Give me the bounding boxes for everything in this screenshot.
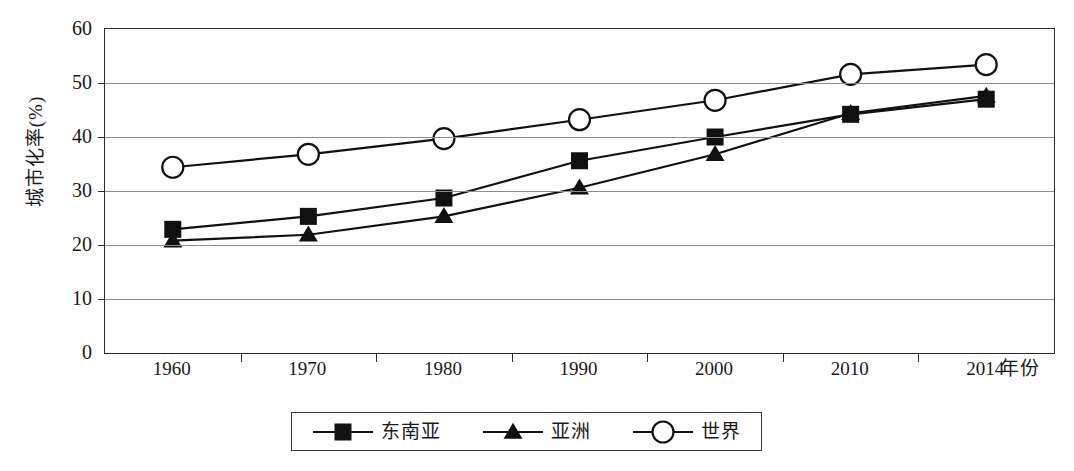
legend-item[interactable]: 东南亚 [312,420,441,444]
chart-figure: 6050403020100 城市化率(%) 196019701980199020… [0,0,1074,471]
data-point-marker [976,54,997,75]
data-point-marker [298,144,319,165]
y-axis-tick-label: 20 [36,234,92,254]
data-point-marker [569,109,590,130]
data-point-marker [435,190,452,207]
x-axis-tick-label: 2010 [810,358,890,380]
x-axis-title: 年份 [1000,358,1040,380]
y-axis-tick [98,83,105,84]
data-point-marker [433,128,454,149]
x-axis-tick-label: 1970 [267,358,347,380]
legend-item[interactable]: 亚洲 [482,420,591,444]
chart-legend: 东南亚亚洲世界 [291,412,762,451]
y-axis-tick-label: 60 [36,18,92,38]
x-axis-tick-label: 2000 [674,358,754,380]
data-point-marker [162,157,183,178]
y-axis-tick [98,137,105,138]
data-point-marker [300,208,317,225]
gridline [105,83,1054,84]
gridline [105,137,1054,138]
legend-marker-open-circle-icon [632,420,694,444]
y-axis-title: 城市化率(%) [26,87,45,217]
plot-area [104,28,1055,354]
legend-item-label: 东南亚 [381,422,441,441]
gridline [105,245,1054,246]
legend-marker-filled-triangle-icon [482,420,544,444]
y-axis-tick [98,191,105,192]
x-axis-labels: 1960197019801990200020102014 [104,358,1053,384]
legend-item[interactable]: 世界 [632,420,741,444]
gridline [105,299,1054,300]
data-point-marker [571,152,588,169]
x-axis-tick-label: 1990 [539,358,619,380]
y-axis-tick [98,245,105,246]
legend-marker-filled-square-icon [312,420,374,444]
y-axis-tick-label: 0 [36,342,92,362]
x-axis-tick-label: 1980 [403,358,483,380]
x-axis-tick-label: 1960 [132,358,212,380]
legend-item-label: 亚洲 [551,422,591,441]
gridline [105,191,1054,192]
y-axis-tick-label: 10 [36,288,92,308]
clipped-header-text [18,0,438,7]
legend-item-label: 世界 [701,422,741,441]
y-axis-tick [98,299,105,300]
data-point-marker [840,64,861,85]
data-point-marker [705,90,726,111]
